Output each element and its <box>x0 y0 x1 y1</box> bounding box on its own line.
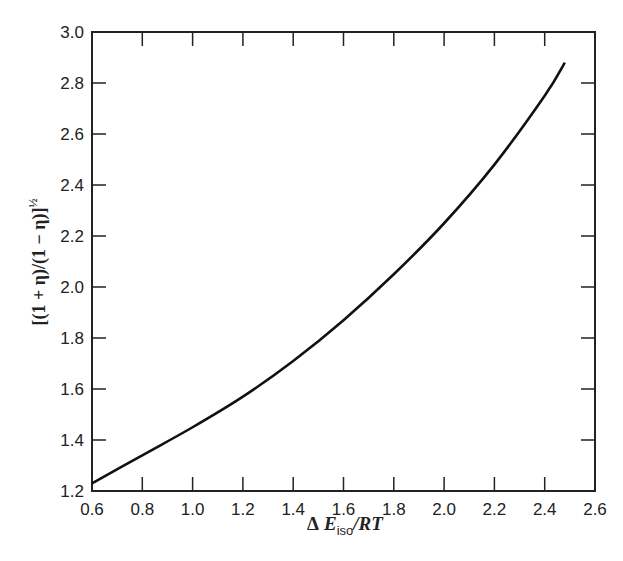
chart: 0.60.81.01.21.41.61.82.02.22.42.6 1.21.4… <box>0 0 623 561</box>
x-tick-label: 1.8 <box>382 500 406 519</box>
x-tick-label: 1.4 <box>281 500 305 519</box>
y-tick-label: 2.4 <box>60 176 84 195</box>
y-tick-label: 2.0 <box>60 278 84 297</box>
x-tick-label: 2.2 <box>483 500 507 519</box>
y-tick-label: 2.2 <box>60 227 84 246</box>
plot-border <box>92 32 595 491</box>
y-tick-label: 1.4 <box>60 431 84 450</box>
y-axis-label: [(1 + η)/(1 − η)]½ <box>26 199 50 326</box>
x-tick-label: 2.0 <box>432 500 456 519</box>
x-tick-label: 0.6 <box>80 500 104 519</box>
x-tick-label: 2.6 <box>583 500 607 519</box>
y-axis-ticks: 1.21.41.61.82.02.22.42.62.83.0 <box>60 23 595 501</box>
y-tick-label: 1.6 <box>60 380 84 399</box>
y-tick-label: 3.0 <box>60 23 84 42</box>
x-tick-label: 0.8 <box>130 500 154 519</box>
data-curve <box>92 63 565 484</box>
x-tick-label: 1.0 <box>181 500 205 519</box>
x-tick-label: 1.2 <box>231 500 255 519</box>
y-tick-label: 2.6 <box>60 125 84 144</box>
x-tick-label: 2.4 <box>533 500 557 519</box>
y-tick-label: 2.8 <box>60 74 84 93</box>
y-tick-label: 1.8 <box>60 329 84 348</box>
y-tick-label: 1.2 <box>60 482 84 501</box>
plot-frame <box>92 32 595 491</box>
